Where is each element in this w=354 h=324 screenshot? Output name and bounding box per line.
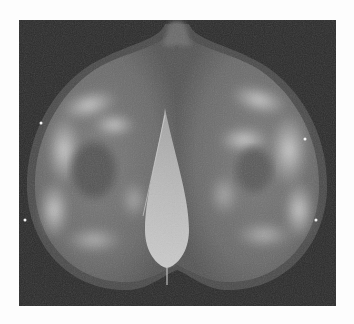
image-canvas: Mammogram image showing two breasts mirr… — [0, 0, 354, 324]
mammogram-frame: Mammogram image showing two breasts mirr… — [19, 20, 336, 306]
marker-dot-left-lower — [24, 219, 27, 222]
marker-dot-left-upper — [40, 122, 43, 125]
mammogram-image — [19, 20, 336, 306]
marker-dot-right-upper — [304, 138, 307, 141]
marker-dot-right-lower — [315, 219, 318, 222]
texture-noise — [19, 20, 336, 306]
